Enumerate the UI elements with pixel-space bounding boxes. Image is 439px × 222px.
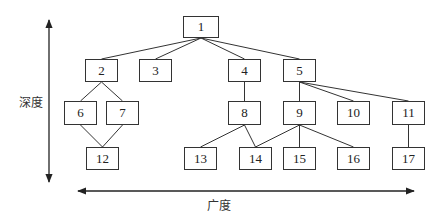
tree-node-10: 10	[337, 101, 370, 125]
tree-node-6: 6	[64, 101, 97, 125]
edge-7-12	[103, 125, 123, 147]
tree-node-11: 11	[392, 101, 425, 125]
edge-1-2	[102, 38, 202, 59]
tree-edges	[81, 38, 409, 147]
tree-node-8: 8	[228, 101, 261, 125]
tree-node-5: 5	[283, 59, 316, 82]
edge-2-7	[102, 82, 123, 101]
tree-node-9: 9	[283, 101, 316, 125]
edge-5-11	[300, 82, 409, 101]
edge-9-16	[300, 125, 354, 147]
tree-node-1: 1	[183, 16, 219, 38]
tree-node-17: 17	[392, 147, 425, 170]
breadth-axis-label: 广度	[207, 196, 231, 213]
edge-8-14	[245, 125, 256, 147]
tree-node-3: 3	[139, 59, 172, 82]
tree-node-4: 4	[228, 59, 261, 82]
tree-node-15: 15	[283, 147, 316, 170]
tree-node-12: 12	[86, 147, 119, 170]
edge-2-6	[81, 82, 102, 101]
edge-9-14	[256, 125, 300, 147]
edge-5-10	[300, 82, 354, 101]
tree-node-16: 16	[337, 147, 370, 170]
edge-1-4	[201, 38, 245, 59]
tree-node-2: 2	[85, 59, 118, 82]
edge-1-5	[201, 38, 300, 59]
tree-node-13: 13	[184, 147, 217, 170]
edge-8-13	[201, 125, 245, 147]
depth-axis-label: 深度	[19, 93, 43, 110]
tree-node-14: 14	[239, 147, 272, 170]
edge-1-3	[156, 38, 202, 59]
tree-node-7: 7	[106, 101, 139, 125]
edge-6-12	[81, 125, 103, 147]
